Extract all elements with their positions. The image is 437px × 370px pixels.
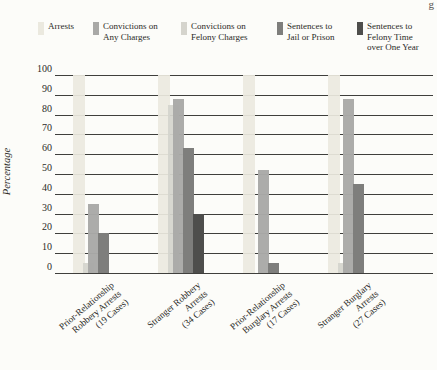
bar-sentences-to-felony-time-over-one-year-group2	[193, 214, 204, 273]
felony-arrest-outcomes-chart: ArrestsConvictions on Any ChargesConvict…	[0, 0, 437, 370]
bar-arrests-group4	[328, 75, 340, 273]
x-category-label: Stranger Burglary Arrests (27 Cases)	[316, 280, 388, 348]
y-axis-tick-label: 40	[20, 182, 52, 194]
y-axis-tick-label: 70	[20, 122, 52, 134]
bar-sentences-to-jail-or-prison-group1	[98, 233, 109, 273]
y-axis-tick-label: 50	[20, 162, 52, 174]
bar-arrests-group3	[243, 75, 255, 273]
y-axis-tick-label: 30	[20, 202, 52, 214]
y-axis-tick-label: 0	[20, 261, 52, 273]
plot-area: Percentage 1009080706050403020100Prior-R…	[0, 0, 437, 370]
x-category-label: Prior-Relationship Burglary Arrests (17 …	[229, 280, 302, 349]
bar-convictions-on-any-charges-group3	[258, 170, 269, 273]
y-axis-tick-label: 20	[20, 221, 52, 233]
y-axis-tick-label: 100	[20, 63, 52, 75]
bar-arrests-group1	[73, 75, 85, 273]
gridline	[55, 273, 433, 274]
y-axis-title: Percentage	[1, 137, 12, 207]
y-axis-tick-label: 80	[20, 103, 52, 115]
y-axis-tick-label: 60	[20, 142, 52, 154]
y-axis-tick-label: 90	[20, 83, 52, 95]
y-axis-tick-label: 10	[20, 241, 52, 253]
x-category-label: Stranger Robbery Arrests (34 Cases)	[146, 280, 217, 347]
x-category-label: Prior-Relationship Robbery Arrests (19 C…	[58, 280, 131, 349]
bar-sentences-to-jail-or-prison-group3	[268, 263, 279, 273]
page-edge-text-artifact: g	[429, 0, 435, 10]
bar-sentences-to-jail-or-prison-group4	[353, 184, 364, 273]
